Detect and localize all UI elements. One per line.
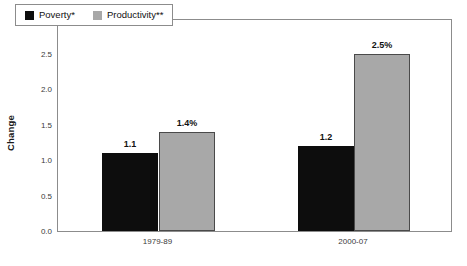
x-axis-tick-labels: 1979-892000-07: [57, 238, 452, 254]
bar-value-label: 2.5%: [354, 41, 410, 50]
y-axis-tick-label: 2.0: [24, 86, 52, 94]
y-axis-tick-label: 0.0: [24, 228, 52, 236]
bar-value-label: 1.1: [102, 140, 158, 149]
bar-poverty--2000-07: [298, 146, 354, 231]
legend-item-label: Poverty*: [39, 10, 75, 20]
legend-swatch-icon: [25, 11, 34, 20]
y-axis-tick-labels: 0.00.51.01.52.02.53.0: [24, 0, 52, 266]
bar-chart: Change 0.00.51.01.52.02.53.0 1.11.4%1.22…: [0, 0, 467, 266]
legend-item-0: Poverty*: [25, 10, 75, 20]
y-axis-title: Change: [0, 0, 20, 266]
bar-productivity--2000-07: [354, 54, 410, 232]
plot-inner: 1.11.4%1.22.5%: [58, 20, 451, 231]
chart-legend: Poverty*Productivity**: [15, 4, 173, 26]
x-axis-tick-label: 1979-89: [143, 238, 172, 246]
x-axis-tick-label: 2000-07: [338, 238, 367, 246]
legend-item-1: Productivity**: [93, 10, 164, 20]
bar-productivity--1979-89: [159, 132, 215, 231]
y-axis-tick-label: 1.5: [24, 122, 52, 130]
y-axis-tick-label: 1.0: [24, 157, 52, 165]
legend-item-label: Productivity**: [107, 10, 164, 20]
bar-poverty--1979-89: [102, 153, 158, 231]
bar-value-label: 1.4%: [159, 119, 215, 128]
bar-value-label: 1.2: [298, 133, 354, 142]
legend-swatch-icon: [93, 11, 102, 20]
y-axis-tick-label: 0.5: [24, 193, 52, 201]
plot-area: 1.11.4%1.22.5%: [57, 19, 452, 232]
y-axis-tick-label: 2.5: [24, 51, 52, 59]
